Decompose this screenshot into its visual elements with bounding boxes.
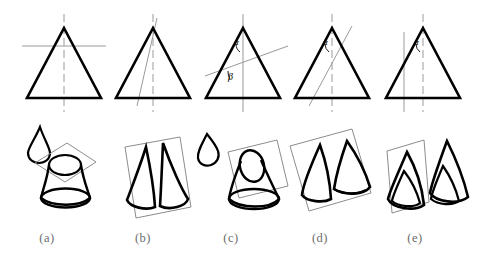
angle-label-alpha-d: α — [323, 37, 328, 47]
panel-b — [116, 14, 191, 218]
panel-a — [22, 14, 106, 208]
caption-e: (e) — [395, 231, 435, 246]
caption-d: (d) — [300, 231, 340, 246]
cone-cap-a — [28, 127, 50, 163]
cone-body-c — [229, 160, 279, 207]
caption-c: (c) — [211, 231, 251, 246]
panel-d-top-diagram: α — [295, 14, 369, 112]
cone-parabolic-piece-left-d — [302, 145, 331, 201]
cutting-plane-trace-c — [205, 46, 288, 76]
caption-a: (a) — [27, 231, 67, 246]
cone-remainder-d — [334, 141, 370, 194]
panel-c-solid — [198, 134, 288, 209]
caption-row: (a) (b) (c) (d) (e) — [0, 231, 483, 253]
conic-sections-figure: α β α — [0, 0, 483, 260]
cone-frustum-a — [41, 165, 90, 205]
panel-d: α — [290, 14, 371, 211]
panel-b-top-diagram — [116, 14, 190, 112]
panel-e-solid — [387, 140, 468, 213]
panel-a-solid — [28, 127, 96, 208]
ellipse-cap-c — [198, 134, 219, 166]
panel-c-top-diagram: α β — [205, 14, 288, 112]
cone-half-left-b — [127, 147, 155, 209]
cutting-plane-trace-d — [309, 26, 352, 106]
angle-label-alpha-e: α — [414, 37, 419, 47]
cone-remainder-e — [430, 141, 468, 202]
angle-label-beta-c: β — [227, 71, 233, 82]
panel-e-top-diagram: α — [386, 14, 460, 112]
panel-c: α β — [198, 14, 288, 209]
panel-b-solid — [125, 137, 191, 218]
caption-b: (b) — [123, 231, 163, 246]
cone-half-right-b — [160, 143, 188, 208]
angle-label-alpha-c: α — [234, 37, 239, 47]
panel-e: α — [386, 14, 468, 213]
panel-a-top-diagram — [22, 14, 106, 112]
circle-section-a — [49, 155, 81, 175]
panel-d-solid — [290, 129, 371, 211]
